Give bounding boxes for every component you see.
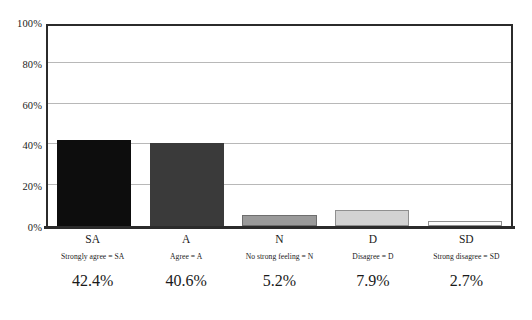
y-axis-tick-label: 100% <box>2 19 42 30</box>
category-column-sa: SAStrongly agree = SA42.4% <box>46 231 139 320</box>
category-value-label: 2.7% <box>420 272 513 290</box>
category-code-label: N <box>233 233 326 245</box>
category-column-d: DDisagree = D7.9% <box>326 231 419 320</box>
y-axis-tick-label: 40% <box>2 141 42 152</box>
y-axis-tick-label: 60% <box>2 100 42 111</box>
category-value-label: 7.9% <box>326 272 419 290</box>
y-axis-tick-label: 80% <box>2 60 42 71</box>
bar-chart: 0%20%40%60%80%100% SAStrongly agree = SA… <box>0 0 532 320</box>
category-code-label: SA <box>46 233 139 245</box>
y-axis-tick-label: 0% <box>2 223 42 234</box>
category-legend-label: Strong disagree = SD <box>420 252 513 261</box>
x-axis-baseline <box>44 226 515 229</box>
category-label-row: SAStrongly agree = SA42.4%AAgree = A40.6… <box>46 231 513 320</box>
gridline <box>48 62 511 63</box>
category-column-n: NNo strong feeling = N5.2% <box>233 231 326 320</box>
y-axis: 0%20%40%60%80%100% <box>0 0 42 320</box>
category-value-label: 42.4% <box>46 272 139 290</box>
bar-n <box>242 215 316 226</box>
category-value-label: 40.6% <box>139 272 232 290</box>
bar-d <box>335 210 409 226</box>
category-legend-label: No strong feeling = N <box>233 252 326 261</box>
category-column-a: AAgree = A40.6% <box>139 231 232 320</box>
category-code-label: A <box>139 233 232 245</box>
category-legend-label: Strongly agree = SA <box>46 252 139 261</box>
bar-a <box>150 143 224 226</box>
plot-area <box>46 24 513 228</box>
category-column-sd: SDStrong disagree = SD2.7% <box>420 231 513 320</box>
bar-sa <box>57 140 131 226</box>
category-code-label: D <box>326 233 419 245</box>
y-axis-tick-label: 20% <box>2 182 42 193</box>
category-legend-label: Disagree = D <box>326 252 419 261</box>
gridline <box>48 103 511 104</box>
category-value-label: 5.2% <box>233 272 326 290</box>
category-legend-label: Agree = A <box>139 252 232 261</box>
category-code-label: SD <box>420 233 513 245</box>
